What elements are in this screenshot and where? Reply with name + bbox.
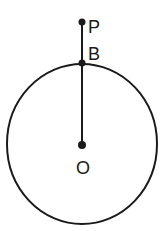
point-b <box>79 60 86 67</box>
label-p: P <box>88 17 100 37</box>
point-o <box>78 141 86 149</box>
label-b: B <box>88 44 100 64</box>
point-p <box>79 19 86 26</box>
label-o: O <box>76 158 90 178</box>
geometry-diagram: P B O <box>0 0 167 231</box>
